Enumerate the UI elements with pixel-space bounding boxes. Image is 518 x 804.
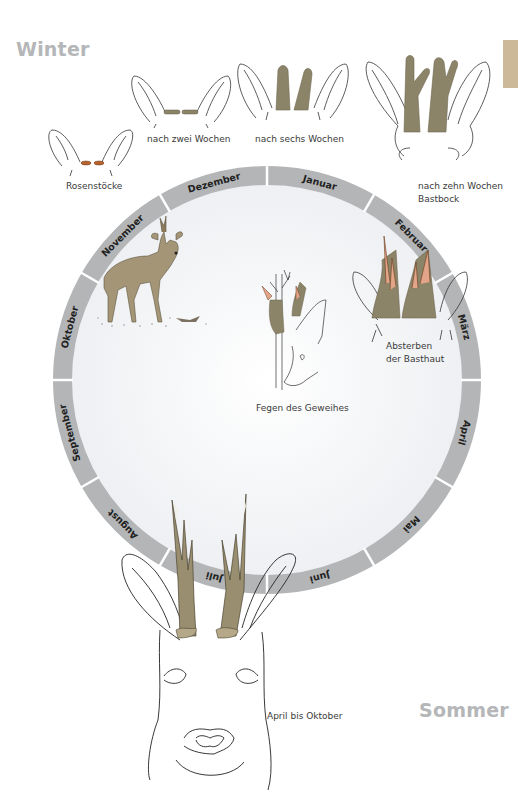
ring-inner-area <box>72 185 462 575</box>
caption-zehn-wochen: nach zehn Wochen Bastbock <box>418 180 503 206</box>
sechs-wochen-illustration <box>238 64 349 120</box>
rosenstoecke-illustration <box>49 130 133 176</box>
caption-fegen: Fegen des Geweihes <box>256 402 349 415</box>
caption-april-oktober: April bis Oktober <box>267 710 342 723</box>
caption-zwei-wochen: nach zwei Wochen <box>147 133 231 146</box>
caption-sechs-wochen: nach sechs Wochen <box>255 133 344 146</box>
zehn-wochen-illustration <box>366 56 490 161</box>
caption-basthaut-line2: der Basthaut <box>386 353 444 366</box>
caption-basthaut: Absterben der Basthaut <box>386 340 444 366</box>
caption-zehn-wochen-line2: Bastbock <box>418 193 503 206</box>
caption-zehn-wochen-line1: nach zehn Wochen <box>418 180 503 193</box>
caption-basthaut-line1: Absterben <box>386 340 444 353</box>
zwei-wochen-illustration <box>132 76 231 128</box>
caption-rosenstoecke: Rosenstöcke <box>66 180 122 193</box>
